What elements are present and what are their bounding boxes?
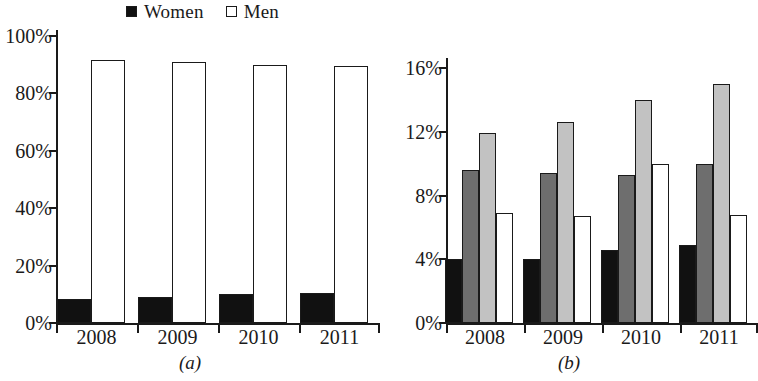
y-tick-label: 12% [405, 122, 442, 142]
y-tick-mark [439, 322, 446, 324]
bar-men-2009 [172, 62, 206, 323]
legend-label: Women [144, 2, 204, 21]
legend-item-men: Men [226, 2, 279, 21]
axis-area-a [56, 30, 380, 325]
y-tick-label: 8% [415, 186, 442, 206]
chart-panel-a: WomenMen 0%20%40%60%80%100% 200820092010… [0, 0, 380, 381]
x-tick-label: 2010 [239, 327, 279, 347]
legend-swatch-icon [226, 6, 237, 17]
legend-chart-a: WomenMen [126, 2, 279, 21]
bar-independents-2008 [479, 133, 496, 323]
y-tick-mark [439, 67, 446, 69]
legend-item-women: Women [126, 2, 204, 21]
bar-women-2011 [300, 293, 334, 323]
y-tick-label: 4% [415, 249, 442, 269]
x-tick-mark [56, 325, 58, 333]
bar-proprietary-2009 [540, 173, 557, 323]
y-tick-mark [49, 207, 56, 209]
x-tick-mark [602, 325, 604, 333]
bar-others-2011 [730, 215, 747, 323]
bar-men-2010 [253, 65, 287, 323]
bar-men-2008 [91, 60, 125, 323]
panel-caption-b: (b) [380, 352, 758, 374]
x-tick-label: 2009 [543, 327, 583, 347]
x-tick-label: 2008 [465, 327, 505, 347]
bar-proprietary-2010 [618, 175, 635, 323]
y-tick-label: 100% [5, 26, 52, 46]
bar-executive-2011 [679, 245, 696, 323]
y-tick-label: 80% [15, 83, 52, 103]
axis-area-b [446, 58, 758, 325]
y-tick-label: 20% [15, 256, 52, 276]
y-tick-mark [439, 258, 446, 260]
bar-proprietary-2008 [462, 170, 479, 323]
plot-area-a: 0%20%40%60%80%100% 2008200920102011 [0, 30, 380, 325]
bar-executive-2010 [601, 250, 618, 323]
figure-root: WomenMen 0%20%40%60%80%100% 200820092010… [0, 0, 758, 381]
y-tick-mark [49, 265, 56, 267]
x-tick-label: 2010 [621, 327, 661, 347]
y-tick-label: 0% [25, 313, 52, 333]
y-tick-label: 16% [405, 58, 442, 78]
x-tick-mark [680, 325, 682, 333]
legend-swatch-icon [126, 6, 137, 17]
x-tick-mark [299, 325, 301, 333]
chart-panel-b: ExecutiveProprietaryIndependentsOthers 0… [380, 0, 758, 381]
bars-container-a [56, 30, 380, 323]
x-tick-mark [446, 325, 448, 333]
y-tick-mark [49, 92, 56, 94]
bar-executive-2009 [523, 259, 540, 323]
y-tick-mark [49, 35, 56, 37]
y-axis-labels-b: 0%4%8%12%16% [380, 58, 442, 325]
bar-women-2010 [219, 294, 253, 323]
bar-independents-2009 [557, 122, 574, 323]
x-tick-label: 2008 [77, 327, 117, 347]
bar-others-2008 [496, 213, 513, 323]
bar-men-2011 [334, 66, 368, 323]
x-tick-label: 2009 [158, 327, 198, 347]
y-tick-mark [49, 322, 56, 324]
bar-others-2009 [574, 216, 591, 323]
y-tick-label: 60% [15, 141, 52, 161]
bar-women-2008 [57, 299, 91, 323]
bar-executive-2008 [445, 259, 462, 323]
y-tick-mark [439, 131, 446, 133]
bar-independents-2010 [635, 100, 652, 323]
bar-proprietary-2011 [696, 164, 713, 323]
bars-container-b [446, 58, 758, 323]
y-tick-label: 0% [415, 313, 442, 333]
y-axis-labels-a: 0%20%40%60%80%100% [0, 30, 52, 325]
y-tick-mark [49, 150, 56, 152]
legend-label: Men [244, 2, 279, 21]
y-tick-label: 40% [15, 198, 52, 218]
x-tick-label: 2011 [320, 327, 359, 347]
x-tick-mark [218, 325, 220, 333]
bar-independents-2011 [713, 84, 730, 323]
x-tick-mark [137, 325, 139, 333]
x-tick-mark [524, 325, 526, 333]
bar-others-2010 [652, 164, 669, 323]
x-tick-label: 2011 [699, 327, 738, 347]
plot-area-b: 0%4%8%12%16% 2008200920102011 [380, 58, 758, 325]
panel-caption-a: (a) [0, 352, 380, 374]
bar-women-2009 [138, 297, 172, 323]
y-tick-mark [439, 195, 446, 197]
